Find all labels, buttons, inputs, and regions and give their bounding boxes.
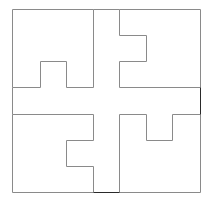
- square-dissection-figure: [0, 0, 209, 206]
- puzzle-diagram: [0, 0, 209, 206]
- background: [0, 0, 209, 206]
